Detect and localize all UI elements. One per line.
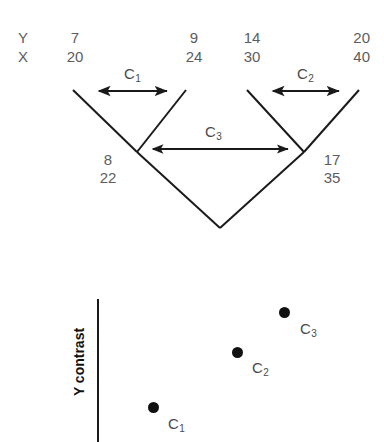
y-axis-label: Y contrast — [72, 304, 86, 420]
branch-tip3 — [247, 90, 304, 152]
tip3-y-value: 14 — [240, 30, 264, 45]
tip2-x-value: 24 — [182, 49, 206, 64]
branch-node-right-root — [220, 152, 304, 228]
node-right-x-value: 35 — [320, 170, 344, 185]
tip3-x-value: 30 — [240, 49, 264, 64]
contrast-c3-letter: C — [205, 123, 216, 140]
contrast-label-c2: C2 — [297, 66, 313, 81]
tip1-y-value: 7 — [63, 30, 87, 45]
contrast-label-c1: C1 — [124, 66, 140, 81]
branch-tip4 — [304, 90, 359, 152]
tip4-y-value: 20 — [344, 30, 370, 45]
tip1-x-value: 20 — [63, 49, 87, 64]
contrast-label-c3: C3 — [205, 124, 221, 139]
point-c2-subscript: 2 — [263, 367, 269, 378]
node-right-y-value: 17 — [320, 152, 344, 167]
data-point-c3 — [279, 307, 290, 318]
tip2-y-value: 9 — [182, 30, 206, 45]
row-label-y: Y — [18, 30, 28, 45]
branch-tip2 — [137, 90, 186, 152]
figure-root: Y X 7 20 9 24 14 30 20 40 8 22 17 35 C1 … — [0, 0, 384, 442]
contrast-c3-subscript: 3 — [216, 131, 222, 142]
data-point-c2 — [232, 347, 243, 358]
point-c1-letter: C — [168, 415, 179, 432]
contrast-c1-subscript: 1 — [135, 73, 141, 84]
point-label-c3: C3 — [300, 321, 316, 336]
point-c1-subscript: 1 — [179, 423, 185, 434]
point-c3-letter: C — [300, 320, 311, 337]
branch-tip1 — [73, 90, 137, 152]
tip4-x-value: 40 — [344, 49, 370, 64]
node-left-x-value: 22 — [96, 170, 120, 185]
point-c3-subscript: 3 — [311, 328, 317, 339]
contrast-c1-letter: C — [124, 65, 135, 82]
contrast-c2-letter: C — [297, 65, 308, 82]
branch-node-left-root — [137, 152, 220, 228]
point-label-c2: C2 — [252, 360, 268, 375]
contrast-c2-subscript: 2 — [308, 73, 314, 84]
data-point-c1 — [148, 402, 159, 413]
point-label-c1: C1 — [168, 416, 184, 431]
node-left-y-value: 8 — [98, 152, 118, 167]
row-label-x: X — [18, 49, 28, 64]
figure-vector-overlay — [0, 0, 384, 442]
point-c2-letter: C — [252, 359, 263, 376]
